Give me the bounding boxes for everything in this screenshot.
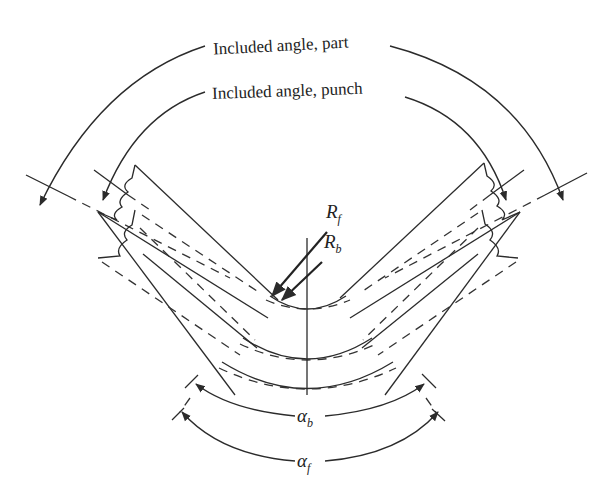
alpha-f-label: αf [297, 450, 312, 475]
springback-diagram: Included angle, part Included angle, pun… [0, 0, 613, 494]
alpha-b-dimension: αb [196, 384, 424, 430]
alpha-extension-lines [172, 374, 445, 421]
included-angle-part-label: Included angle, part [213, 32, 350, 58]
radius-bend-label: Rb [323, 231, 342, 256]
punch-angle-extension-lines [94, 170, 524, 210]
included-angle-part-dimension: Included angle, part [40, 32, 563, 205]
right-part-arm [340, 163, 520, 395]
included-angle-punch-label: Included angle, punch [212, 79, 364, 103]
included-angle-punch-dimension: Included angle, punch [103, 79, 506, 200]
alpha-b-label: αb [297, 405, 313, 430]
radius-final-label: Rf [325, 201, 343, 226]
left-part-arm [98, 165, 278, 395]
